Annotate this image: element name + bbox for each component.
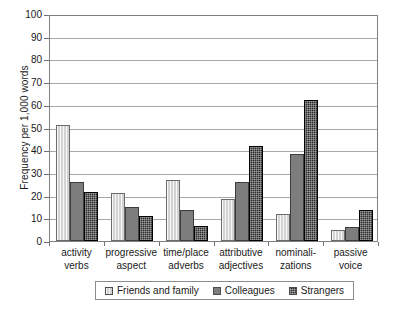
legend-label: Strangers xyxy=(301,285,344,296)
x-tick-mark xyxy=(49,242,50,246)
bar-group xyxy=(215,16,270,241)
bar xyxy=(56,125,70,241)
x-tick-mark xyxy=(323,242,324,246)
x-tick-mark xyxy=(159,242,160,246)
x-tick-label-line: passive xyxy=(318,247,384,260)
legend-label: Friends and family xyxy=(117,285,199,296)
y-tick-label: 70 xyxy=(14,78,42,88)
bar xyxy=(235,182,249,241)
bar xyxy=(359,210,373,241)
y-tick-label: 100 xyxy=(14,10,42,20)
x-tick-mark xyxy=(268,242,269,246)
legend-swatch-icon xyxy=(213,287,221,295)
y-tick-label: 90 xyxy=(14,33,42,43)
x-tick-label: passivevoice xyxy=(318,247,384,272)
x-tick-mark xyxy=(214,242,215,246)
bar xyxy=(70,182,84,241)
bar-group xyxy=(50,16,105,241)
y-tick-label: 50 xyxy=(14,124,42,134)
legend-swatch-icon xyxy=(289,287,297,295)
bar xyxy=(221,199,235,241)
legend-item: Friends and family xyxy=(105,285,199,296)
bar-groups xyxy=(50,16,377,241)
bar xyxy=(194,226,208,241)
bar xyxy=(111,193,125,241)
y-tick-label: 80 xyxy=(14,55,42,65)
y-tick-label: 40 xyxy=(14,146,42,156)
bar-group xyxy=(160,16,215,241)
y-tick-label: 0 xyxy=(14,237,42,247)
bar-group xyxy=(105,16,160,241)
y-tick-label: 10 xyxy=(14,214,42,224)
x-tick-mark xyxy=(104,242,105,246)
bar-chart: Frequency per 1,000 words 10090807060504… xyxy=(0,0,395,314)
bar xyxy=(304,100,318,241)
bar xyxy=(290,154,304,241)
bar xyxy=(125,207,139,241)
x-tick-label-line: voice xyxy=(318,260,384,273)
y-tick-label: 30 xyxy=(14,169,42,179)
legend-swatch-icon xyxy=(105,287,113,295)
bar xyxy=(276,214,290,241)
legend-item: Colleagues xyxy=(213,285,275,296)
y-tick-label: 60 xyxy=(14,101,42,111)
bar xyxy=(139,216,153,241)
bar xyxy=(84,192,98,241)
legend-item: Strangers xyxy=(289,285,344,296)
legend-label: Colleagues xyxy=(225,285,275,296)
bar-group xyxy=(269,16,324,241)
y-tick-label: 20 xyxy=(14,192,42,202)
bar xyxy=(331,230,345,241)
bar xyxy=(249,146,263,241)
legend: Friends and familyColleaguesStrangers xyxy=(95,281,354,300)
bar xyxy=(345,227,359,241)
bar xyxy=(166,180,180,241)
x-tick-mark xyxy=(378,242,379,246)
bar-group xyxy=(324,16,379,241)
bar xyxy=(180,210,194,241)
